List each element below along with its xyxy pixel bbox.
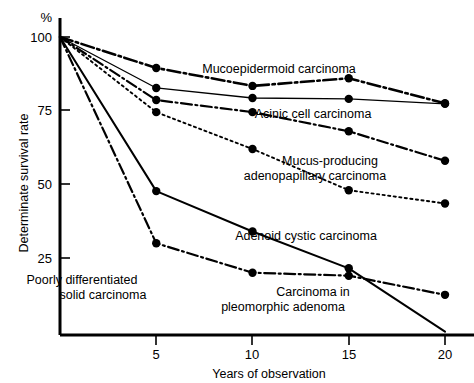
data-point	[345, 264, 353, 272]
data-point	[345, 127, 353, 135]
data-point	[345, 95, 353, 103]
y-axis-title: Determinate survival rate	[17, 113, 31, 252]
data-point	[345, 271, 353, 279]
data-point	[248, 94, 256, 102]
y-tick-label-100: 100	[30, 30, 52, 45]
series-annotation: Acinic cell carcinoma	[255, 107, 372, 121]
series-annotation: Adenoid cystic carcinoma	[235, 229, 377, 243]
x-tick-label-5: 5	[152, 347, 159, 362]
y-axis-unit-label: %	[40, 10, 52, 25]
data-point	[248, 269, 256, 277]
data-point	[152, 96, 160, 104]
data-point	[441, 100, 449, 108]
data-point	[441, 157, 449, 165]
series-annotation: Poorly differentiated	[27, 273, 138, 287]
data-point	[152, 239, 160, 247]
y-tick-label-75: 75	[38, 103, 52, 118]
series-annotation: pleomorphic adenoma	[221, 300, 345, 314]
data-point	[345, 186, 353, 194]
survival-chart-figure: 100 75 50 25 % 5 10 15 20 Years of obser…	[0, 0, 474, 383]
x-axis-title: Years of observation	[212, 367, 326, 381]
series-annotation: Mucoepidermoid carcinoma	[202, 62, 356, 76]
series-annotation: Mucus-producing	[282, 154, 378, 168]
y-tick-label-25: 25	[38, 251, 52, 266]
data-point	[248, 82, 256, 90]
series-annotation: solid carcinoma	[60, 288, 147, 302]
x-tick-label-10: 10	[245, 347, 259, 362]
data-point	[441, 291, 449, 299]
data-point	[441, 199, 449, 207]
y-tick-label-50: 50	[38, 177, 52, 192]
data-point	[152, 64, 160, 72]
data-point	[248, 145, 256, 153]
x-tick-label-20: 20	[438, 347, 452, 362]
x-tick-label-15: 15	[342, 347, 356, 362]
data-point	[152, 84, 160, 92]
data-point	[152, 187, 160, 195]
data-point	[152, 108, 160, 116]
series-annotation: adenopapillary carcinoma	[244, 169, 386, 183]
chart-svg: 100 75 50 25 % 5 10 15 20 Years of obser…	[0, 0, 474, 383]
series-annotation: Carcinoma in	[276, 285, 350, 299]
